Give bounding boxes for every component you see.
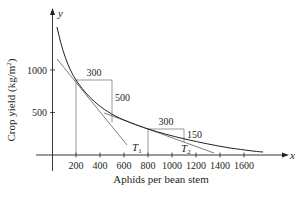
svg-text:600: 600: [117, 160, 132, 171]
tangent-label-t1: T1: [132, 141, 142, 155]
svg-text:1400: 1400: [210, 160, 230, 171]
y-axis-title: Crop yield (kg/m2): [5, 58, 18, 141]
x-tick-labels: 200 400 600 800 1000 1200 1400 1600: [69, 160, 255, 171]
svg-text:200: 200: [69, 160, 84, 171]
crop-yield-chart: y x 1000 500 200 400 600 800 1000 1200 1…: [0, 0, 301, 199]
svg-text:1200: 1200: [186, 160, 206, 171]
svg-text:800: 800: [141, 160, 156, 171]
slope-triangles: [76, 80, 184, 142]
y-axis-arrow-icon: [50, 8, 55, 15]
svg-text:400: 400: [93, 160, 108, 171]
x-axis-title: Aphids per bean stem: [113, 173, 209, 185]
triangle2-rise-label: 150: [187, 129, 202, 140]
svg-text:1000: 1000: [162, 160, 182, 171]
triangle2-run-label: 300: [159, 116, 174, 127]
y-axis-letter: y: [57, 7, 63, 19]
triangle1-rise-label: 500: [115, 92, 130, 103]
svg-text:1600: 1600: [234, 160, 254, 171]
y-tick-label-500: 500: [32, 107, 47, 118]
axes: [36, 12, 284, 171]
x-axis-letter: x: [289, 149, 295, 161]
x-axis-arrow-icon: [282, 153, 289, 158]
triangle1-run-label: 300: [87, 67, 102, 78]
y-tick-label-1000: 1000: [27, 65, 47, 76]
